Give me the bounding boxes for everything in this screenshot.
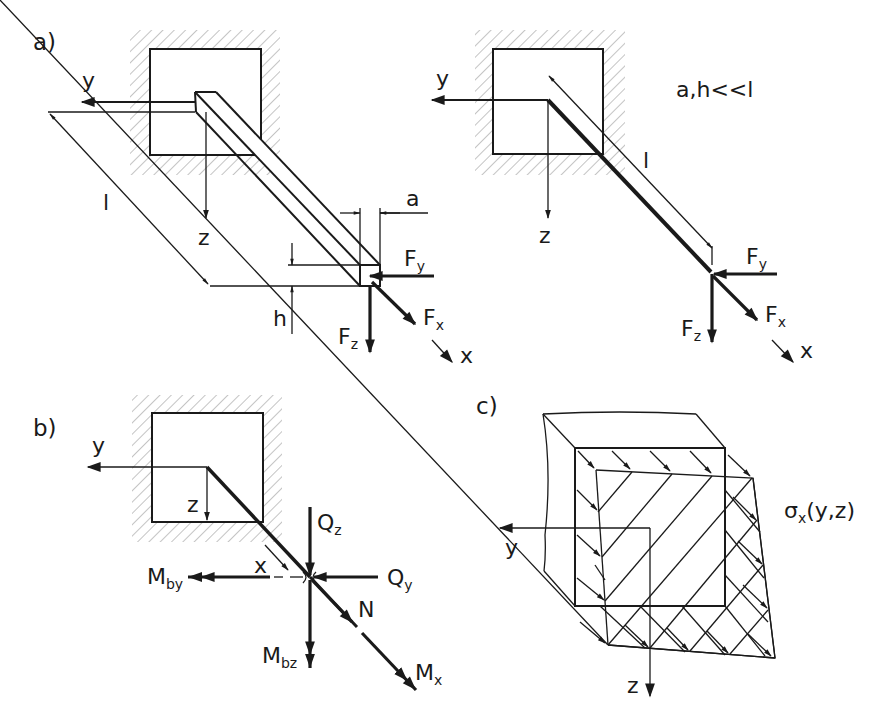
svg-text:Fx: Fx: [765, 302, 786, 330]
force-fz-a-right: Fz: [681, 274, 712, 344]
svg-text:Fx: Fx: [423, 305, 444, 333]
panel-c: c): [0, 0, 855, 698]
svg-text:l: l: [643, 148, 649, 173]
force-fx-a: Fx: [372, 282, 444, 333]
force-fx-a-right: Fx: [713, 276, 786, 330]
svg-text:Mx: Mx: [415, 660, 442, 688]
x-axis-a: x: [432, 340, 473, 368]
svg-text:z: z: [198, 225, 210, 250]
panel-a-right: y z l a,h<<l Fy Fz Fx x: [432, 30, 813, 363]
bending-moment-mby: Mby: [147, 564, 270, 592]
svg-text:z: z: [539, 223, 551, 248]
force-fy-a-right: Fy: [714, 244, 777, 274]
svg-text:N: N: [358, 597, 374, 622]
beam-body-outline: [543, 412, 725, 606]
beam-prism: [195, 92, 380, 286]
svg-text:σx(y,z): σx(y,z): [784, 498, 855, 526]
svg-text:Fy: Fy: [404, 246, 425, 274]
panel-a-left: a) y z l: [33, 29, 473, 368]
svg-text:x: x: [800, 338, 813, 363]
height-dimension-h: h: [273, 243, 360, 334]
svg-text:Mby: Mby: [147, 564, 183, 592]
beam-mechanics-figure: a) y z l: [0, 0, 887, 724]
stress-distribution: [0, 0, 775, 658]
shear-force-qz: Qz: [310, 507, 342, 575]
svg-text:y: y: [436, 66, 449, 91]
panel-b: b) y z x Qz: [33, 395, 442, 690]
svg-text:z: z: [627, 673, 639, 698]
x-axis-a-right: x: [772, 338, 813, 363]
svg-text:y: y: [505, 535, 518, 560]
svg-text:h: h: [273, 306, 287, 331]
svg-text:z: z: [187, 492, 199, 517]
panel-label-c: c): [476, 393, 498, 419]
svg-text:Qy: Qy: [387, 565, 413, 593]
svg-text:Fz: Fz: [338, 324, 358, 352]
svg-text:Mbz: Mbz: [262, 643, 297, 671]
normal-force-n: N: [312, 580, 374, 622]
beam-line: [548, 100, 711, 272]
slenderness-condition: a,h<<l: [676, 77, 753, 102]
bending-moment-mbz: Mbz: [262, 580, 310, 671]
panel-label-a: a): [33, 29, 56, 55]
shear-force-qy: Qy: [314, 565, 413, 593]
svg-text:y: y: [92, 433, 105, 458]
svg-text:x: x: [460, 343, 473, 368]
svg-text:a: a: [406, 186, 419, 211]
svg-text:Fy: Fy: [746, 244, 767, 272]
svg-text:x: x: [254, 553, 267, 578]
panel-label-b: b): [33, 415, 57, 441]
z-axis-b: z: [187, 467, 207, 520]
svg-text:Fz: Fz: [681, 316, 701, 344]
torsion-moment-mx: Mx: [415, 660, 442, 688]
force-fz-a: Fz: [338, 286, 370, 352]
z-axis-a: z: [198, 112, 210, 250]
stress-label: σx(y,z): [784, 498, 855, 526]
svg-text:Qz: Qz: [317, 510, 342, 538]
svg-text:l: l: [103, 190, 109, 215]
